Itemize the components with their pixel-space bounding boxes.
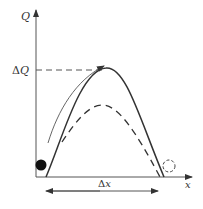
delta-q-label: ΔQ xyxy=(12,64,29,77)
motion-arrow-curve xyxy=(48,66,104,143)
dashed-ball xyxy=(163,160,175,172)
delta-q-symbol: Δ xyxy=(12,64,20,77)
energy-barrier-diagram: Q x ΔQ Δx xyxy=(0,0,203,209)
dashed-barrier-curve xyxy=(62,105,160,177)
solid-barrier-curve xyxy=(46,68,164,177)
x-axis-label: x xyxy=(185,179,191,190)
filled-ball xyxy=(36,160,47,171)
delta-q-var: Q xyxy=(20,64,29,77)
diagram-canvas: Q x ΔQ Δx xyxy=(0,0,203,209)
y-axis-label: Q xyxy=(21,10,30,23)
delta-x-symbol: Δ xyxy=(98,178,105,189)
delta-x-var: x xyxy=(105,178,111,189)
delta-x-label: Δx xyxy=(98,178,111,189)
